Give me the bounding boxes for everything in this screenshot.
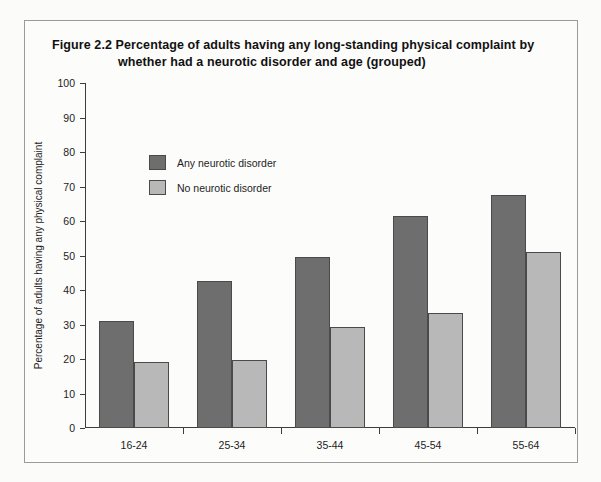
plot-area: 0102030405060708090100 16-2425-3435-4445…: [85, 83, 575, 428]
x-axis-end-tick: [575, 428, 576, 434]
y-axis-tick: [80, 152, 85, 153]
x-axis-group-separator: [183, 428, 184, 434]
bar-55-64-any-neurotic-disorder: [491, 195, 526, 428]
x-axis-group-separator: [477, 428, 478, 434]
chart-legend: Any neurotic disorder No neurotic disord…: [149, 155, 276, 205]
legend-label-any-neurotic-disorder: Any neurotic disorder: [177, 157, 276, 169]
bar-45-54-any-neurotic-disorder: [393, 216, 428, 428]
bar-16-24-any-neurotic-disorder: [99, 321, 134, 428]
y-axis-tick: [80, 83, 85, 84]
y-axis-title: Percentage of adults having any physical…: [32, 83, 46, 428]
legend-item-any-neurotic-disorder: Any neurotic disorder: [149, 155, 276, 170]
legend-label-no-neurotic-disorder: No neurotic disorder: [177, 182, 272, 194]
bar-16-24-no-neurotic-disorder: [134, 362, 169, 428]
y-axis-tick-label: 30: [63, 319, 75, 331]
y-axis-tick: [80, 221, 85, 222]
y-axis-tick: [80, 394, 85, 395]
y-axis-tick-label: 20: [63, 353, 75, 365]
x-axis-label-35-44: 35-44: [317, 439, 344, 451]
x-axis-label-55-64: 55-64: [513, 439, 540, 451]
y-axis-line: [85, 83, 86, 428]
scanned-page: Figure 2.2 Percentage of adults having a…: [0, 0, 601, 482]
y-axis-tick: [80, 428, 85, 429]
figure-title-line-2: whether had a neurotic disorder and age …: [52, 54, 552, 71]
figure-title: Figure 2.2 Percentage of adults having a…: [52, 37, 552, 71]
bar-35-44-no-neurotic-disorder: [330, 327, 365, 428]
y-axis-tick: [80, 359, 85, 360]
y-axis-tick-label: 70: [63, 181, 75, 193]
y-axis-tick-label: 50: [63, 250, 75, 262]
legend-swatch-icon-no-neurotic-disorder: [149, 180, 166, 195]
y-axis-tick: [80, 290, 85, 291]
y-axis-tick: [80, 118, 85, 119]
bar-25-34-any-neurotic-disorder: [197, 281, 232, 428]
x-axis-label-16-24: 16-24: [121, 439, 148, 451]
bar-45-54-no-neurotic-disorder: [428, 313, 463, 428]
y-axis-tick-label: 60: [63, 215, 75, 227]
y-axis-tick-label: 90: [63, 112, 75, 124]
x-axis-group-separator: [379, 428, 380, 434]
legend-swatch-icon-any-neurotic-disorder: [149, 155, 166, 170]
y-axis-tick: [80, 256, 85, 257]
figure-frame: Figure 2.2 Percentage of adults having a…: [24, 20, 578, 463]
y-axis-tick: [80, 325, 85, 326]
x-axis-label-45-54: 45-54: [415, 439, 442, 451]
x-axis-label-25-34: 25-34: [219, 439, 246, 451]
legend-item-no-neurotic-disorder: No neurotic disorder: [149, 180, 276, 195]
y-axis-tick: [80, 187, 85, 188]
y-axis-tick-label: 100: [57, 77, 75, 89]
bar-35-44-any-neurotic-disorder: [295, 257, 330, 428]
bar-55-64-no-neurotic-disorder: [526, 252, 561, 428]
y-axis-tick-label: 10: [63, 388, 75, 400]
y-axis-tick-label: 40: [63, 284, 75, 296]
x-axis-group-separator: [281, 428, 282, 434]
figure-title-line-1: Figure 2.2 Percentage of adults having a…: [52, 37, 552, 54]
y-axis-tick-label: 80: [63, 146, 75, 158]
y-axis-tick-label: 0: [69, 422, 75, 434]
bar-25-34-no-neurotic-disorder: [232, 360, 267, 428]
